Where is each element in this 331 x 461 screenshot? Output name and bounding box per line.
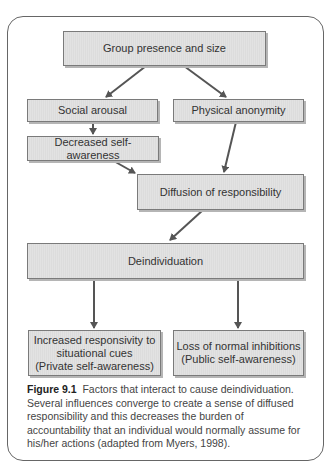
figure-caption: Figure 9.1 Factors that interact to caus… — [27, 383, 307, 451]
node-label: Deindividuation — [128, 255, 203, 268]
node-label-line3: (Private self-awareness) — [35, 360, 154, 373]
node-label-line1: Loss of normal inhibitions — [176, 340, 300, 353]
node-label-line2: (Public self-awareness) — [181, 353, 295, 366]
node-label-line2: situational cues — [57, 347, 133, 360]
node-deindividuation: Deindividuation — [27, 243, 304, 279]
caption-label: Figure 9.1 — [27, 383, 77, 395]
node-label: Diffusion of responsibility — [160, 186, 281, 199]
node-increased-responsivity: Increased responsivity to situational cu… — [28, 330, 161, 376]
node-physical-anonymity: Physical anonymity — [173, 99, 304, 122]
node-group-presence: Group presence and size — [63, 31, 266, 66]
node-diffusion-of-responsibility: Diffusion of responsibility — [137, 174, 304, 210]
node-label: Decreased self-awareness — [28, 136, 158, 162]
node-label-line1: Increased responsivity to — [34, 334, 156, 347]
node-label: Group presence and size — [103, 42, 226, 55]
node-label: Physical anonymity — [191, 104, 285, 117]
node-loss-of-inhibitions: Loss of normal inhibitions (Public self-… — [173, 330, 304, 376]
node-label: Social arousal — [58, 104, 127, 117]
node-decreased-self-awareness: Decreased self-awareness — [27, 136, 159, 161]
node-social-arousal: Social arousal — [27, 99, 158, 122]
